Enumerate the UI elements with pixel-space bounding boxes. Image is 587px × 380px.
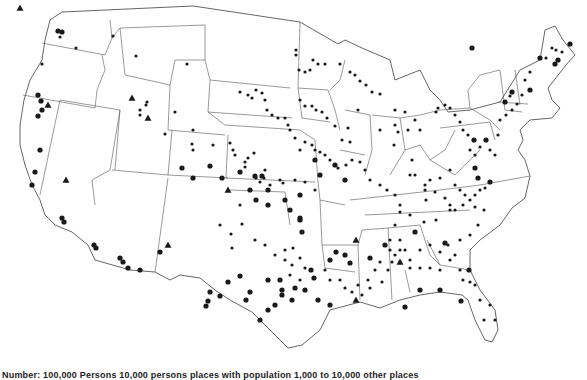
small-city-dot <box>473 193 476 196</box>
small-city-dot <box>229 232 232 235</box>
large-city-dot <box>120 259 125 264</box>
large-city-dot <box>237 169 242 174</box>
small-city-dot <box>343 286 346 289</box>
small-city-dot <box>423 188 426 191</box>
small-city-dot <box>348 140 351 143</box>
small-city-dot <box>408 258 411 261</box>
small-city-dot <box>468 148 471 151</box>
small-city-dot <box>276 116 279 119</box>
small-city-dot <box>303 180 306 183</box>
small-city-dot <box>403 248 406 251</box>
small-city-dot <box>358 79 361 82</box>
large-city-dot <box>289 297 294 302</box>
large-city-dot <box>342 252 347 257</box>
large-city-dot <box>207 163 212 168</box>
large-city-dot <box>125 265 130 270</box>
small-city-dot <box>238 203 241 206</box>
small-city-dot <box>283 116 286 119</box>
large-city-dot <box>297 192 302 197</box>
small-city-dot <box>378 260 381 263</box>
small-city-dot <box>283 258 286 261</box>
small-city-dot <box>436 106 439 109</box>
small-city-dot <box>476 223 479 226</box>
large-city-dot <box>527 87 532 92</box>
small-city-dot <box>434 218 437 221</box>
small-city-dot <box>238 90 241 93</box>
small-city-dot <box>418 266 421 269</box>
small-city-dot <box>288 273 291 276</box>
small-city-dot <box>493 153 496 156</box>
small-city-dot <box>380 280 383 283</box>
small-city-dot <box>373 268 376 271</box>
small-city-dot <box>320 110 323 113</box>
small-city-dot <box>278 178 281 181</box>
small-city-dot <box>498 118 501 121</box>
large-city-dot <box>327 257 332 262</box>
small-city-dot <box>273 253 276 256</box>
small-city-dot <box>163 132 166 135</box>
small-city-dot <box>263 98 266 101</box>
small-city-dot <box>366 278 369 281</box>
small-city-dot <box>185 62 188 65</box>
small-city-dot <box>370 90 373 93</box>
large-city-dot <box>502 99 507 104</box>
large-city-dot <box>207 289 212 294</box>
small-city-dot <box>528 70 531 73</box>
large-city-dot <box>39 107 44 112</box>
large-city-dot <box>205 298 210 303</box>
small-city-dot <box>111 34 114 37</box>
small-city-dot <box>58 35 61 38</box>
small-city-dot <box>231 148 234 151</box>
small-city-dot <box>145 100 148 103</box>
small-city-dot <box>418 248 421 251</box>
large-city-dot <box>247 187 252 192</box>
large-city-dot <box>265 277 270 282</box>
small-city-dot <box>468 198 471 201</box>
small-city-dot <box>410 158 413 161</box>
small-city-dot <box>523 78 526 81</box>
small-city-dot <box>473 153 476 156</box>
small-city-dot <box>344 163 347 166</box>
large-city-dot <box>483 137 488 142</box>
large-city-dot <box>475 175 480 180</box>
large-city-dot <box>179 165 184 170</box>
small-city-dot <box>138 108 141 111</box>
small-city-dot <box>408 266 411 269</box>
small-city-dot <box>293 178 296 181</box>
small-city-dot <box>233 153 236 156</box>
large-city-dot <box>437 287 442 292</box>
small-city-dot <box>428 243 431 246</box>
large-city-dot <box>253 197 258 202</box>
small-city-dot <box>448 203 451 206</box>
large-city-dot <box>347 260 352 265</box>
small-city-dot <box>303 266 306 269</box>
small-city-dot <box>338 62 341 65</box>
small-city-dot <box>478 145 481 148</box>
small-city-dot <box>40 62 43 65</box>
small-city-dot <box>173 110 176 113</box>
small-city-dot <box>325 116 328 119</box>
large-city-dot <box>38 98 43 103</box>
small-city-dot <box>243 165 246 168</box>
small-city-dot <box>496 133 499 136</box>
large-city-dot <box>265 202 270 207</box>
large-city-dot <box>265 307 270 312</box>
large-city-dot <box>412 229 417 234</box>
small-city-dot <box>385 188 388 191</box>
large-city-dot <box>247 289 252 294</box>
small-city-dot <box>308 68 311 71</box>
small-city-dot <box>398 238 401 241</box>
small-city-dot <box>291 246 294 249</box>
small-city-dot <box>408 173 411 176</box>
large-city-dot <box>190 175 195 180</box>
small-city-dot <box>468 280 471 283</box>
small-city-dot <box>413 173 416 176</box>
small-city-dot <box>520 93 523 96</box>
small-city-dot <box>554 48 557 51</box>
small-city-dot <box>313 148 316 151</box>
small-city-dot <box>428 178 431 181</box>
small-city-dot <box>396 130 399 133</box>
small-city-dot <box>316 62 319 65</box>
large-city-dot <box>311 275 316 280</box>
